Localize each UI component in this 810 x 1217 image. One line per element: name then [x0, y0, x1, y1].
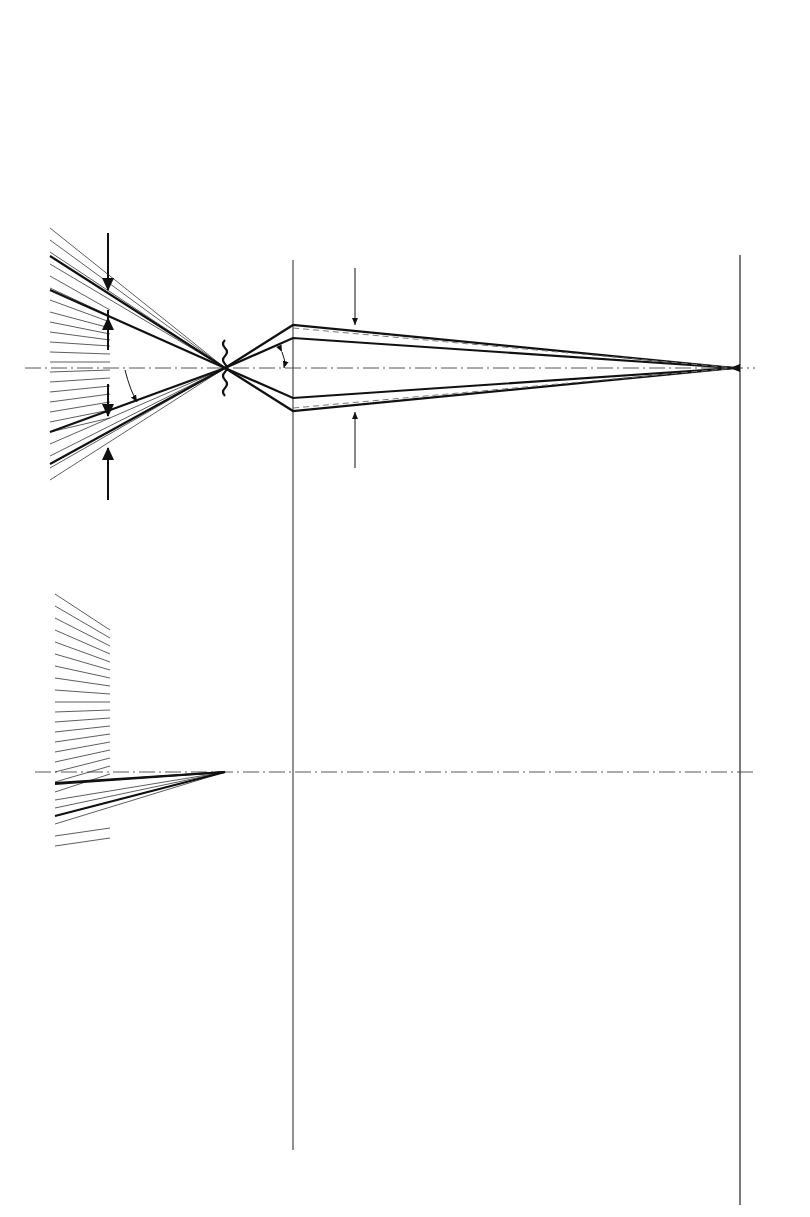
panel-b [35, 594, 755, 846]
tem-dark-field-ray-diagram [0, 0, 810, 1217]
panel-c [25, 228, 755, 500]
